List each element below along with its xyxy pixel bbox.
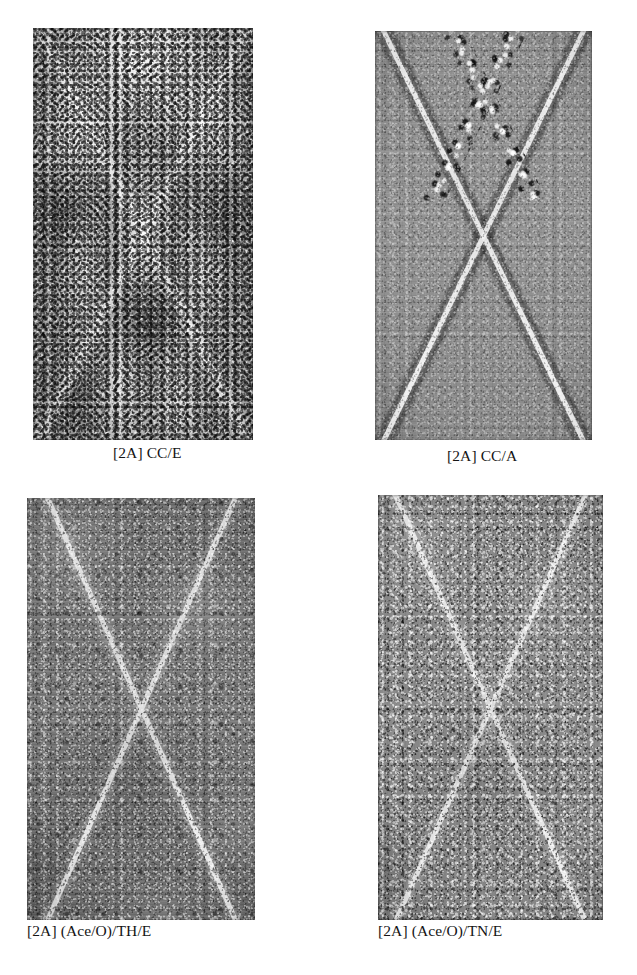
micrograph-image-3 xyxy=(27,498,255,920)
panel-caption-1: [2A] CC/E xyxy=(113,444,182,462)
figure-sheet: [2A] CC/E [2A] CC/A xyxy=(0,0,637,975)
scribe-arm-3b xyxy=(29,498,253,920)
scribe-arm-4b xyxy=(378,495,603,920)
panel-cell-4: [2A] (Ace/O)/TN/E xyxy=(378,495,603,920)
panel-cell-1: [2A] CC/E xyxy=(33,28,253,440)
panel-caption-4: [2A] (Ace/O)/TN/E xyxy=(378,922,502,940)
panel-caption-2: [2A] CC/A xyxy=(447,447,517,465)
panel-cell-2: [2A] CC/A xyxy=(375,31,592,440)
panel-cell-3: [2A] (Ace/O)/TH/E xyxy=(27,498,255,920)
micrograph-image-4 xyxy=(378,495,603,920)
pitting-speckle-layer xyxy=(33,28,253,440)
panel-caption-3: [2A] (Ace/O)/TH/E xyxy=(27,922,151,940)
micrograph-image-2 xyxy=(375,31,592,440)
micrograph-image-1 xyxy=(33,28,253,440)
